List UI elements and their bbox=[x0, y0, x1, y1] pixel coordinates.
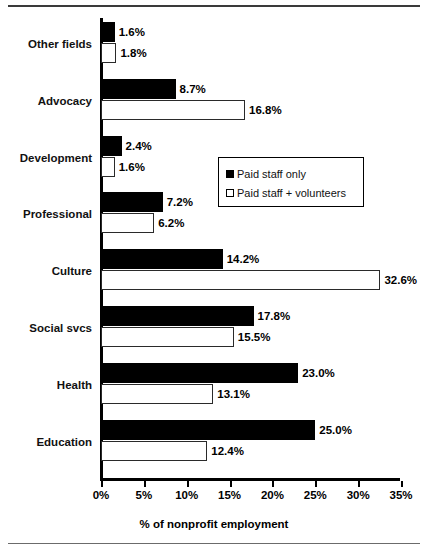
x-axis-tick-label: 35% bbox=[381, 489, 421, 501]
x-axis-tick-label: 5% bbox=[124, 489, 164, 501]
top-divider-rule bbox=[8, 5, 420, 7]
legend-item-paid-staff-plus-volunteers: Paid staff + volunteers bbox=[226, 183, 363, 202]
bar-value-label: 16.8% bbox=[249, 100, 282, 120]
x-axis-tick-label: 0% bbox=[81, 489, 121, 501]
bar-value-label: 25.0% bbox=[319, 420, 352, 440]
y-axis-category-label: Development bbox=[0, 152, 92, 165]
bar-paid-staff-plus-volunteers bbox=[101, 327, 234, 347]
y-axis-category-label: Health bbox=[0, 379, 92, 392]
x-axis-tick-mark bbox=[401, 481, 403, 487]
bar-value-label: 1.8% bbox=[120, 43, 146, 63]
bar-paid-staff-only bbox=[101, 306, 254, 326]
x-axis-tick-label: 15% bbox=[210, 489, 250, 501]
bar-value-label: 1.6% bbox=[119, 22, 145, 42]
bar-group: Other fields1.6%1.8% bbox=[0, 22, 428, 63]
bottom-divider-rule bbox=[8, 543, 420, 544]
bar-paid-staff-only bbox=[101, 79, 176, 99]
bar-paid-staff-plus-volunteers bbox=[101, 157, 115, 177]
bar-group: Health23.0%13.1% bbox=[0, 363, 428, 404]
bar-paid-staff-only bbox=[101, 363, 298, 383]
bar-chart-plot-area: Other fields1.6%1.8%Advocacy8.7%16.8%Dev… bbox=[0, 10, 428, 480]
x-axis-tick-label: 10% bbox=[167, 489, 207, 501]
bar-group: Culture14.2%32.6% bbox=[0, 249, 428, 290]
x-axis-tick-label: 20% bbox=[252, 489, 292, 501]
y-axis-category-label: Other fields bbox=[0, 38, 92, 51]
bar-value-label: 1.6% bbox=[119, 157, 145, 177]
bar-paid-staff-plus-volunteers bbox=[101, 43, 116, 63]
bar-paid-staff-plus-volunteers bbox=[101, 270, 380, 290]
x-axis-tick-mark bbox=[187, 481, 189, 487]
x-axis-tick-mark bbox=[272, 481, 274, 487]
bar-value-label: 6.2% bbox=[158, 213, 184, 233]
legend-swatch-filled-icon bbox=[226, 170, 234, 178]
legend-swatch-hollow-icon bbox=[226, 189, 234, 197]
y-axis-category-label: Education bbox=[0, 436, 92, 449]
chart-legend: Paid staff only Paid staff + volunteers bbox=[218, 157, 364, 207]
y-axis-category-label: Professional bbox=[0, 208, 92, 221]
bar-value-label: 8.7% bbox=[180, 79, 206, 99]
bar-value-label: 32.6% bbox=[384, 270, 417, 290]
bar-value-label: 7.2% bbox=[167, 192, 193, 212]
legend-label-paid-staff-only: Paid staff only bbox=[237, 168, 306, 180]
y-axis-category-label: Advocacy bbox=[0, 95, 92, 108]
x-axis-tick-mark bbox=[101, 481, 103, 487]
x-axis-tick-mark bbox=[358, 481, 360, 487]
x-axis-tick-label: 25% bbox=[295, 489, 335, 501]
x-axis-tick-mark bbox=[315, 481, 317, 487]
bar-paid-staff-only bbox=[101, 136, 122, 156]
bar-paid-staff-only bbox=[101, 22, 115, 42]
bar-paid-staff-plus-volunteers bbox=[101, 384, 213, 404]
x-axis-title: % of nonprofit employment bbox=[0, 518, 428, 530]
bar-value-label: 13.1% bbox=[217, 384, 250, 404]
x-axis-tick-mark bbox=[144, 481, 146, 487]
bar-paid-staff-only bbox=[101, 420, 315, 440]
bar-paid-staff-plus-volunteers bbox=[101, 213, 154, 233]
bar-value-label: 15.5% bbox=[238, 327, 271, 347]
legend-item-paid-staff-only: Paid staff only bbox=[226, 164, 363, 183]
bar-group: Advocacy8.7%16.8% bbox=[0, 79, 428, 120]
bar-value-label: 14.2% bbox=[227, 249, 260, 269]
x-axis-tick-label: 30% bbox=[338, 489, 378, 501]
bar-value-label: 2.4% bbox=[126, 136, 152, 156]
bar-paid-staff-only bbox=[101, 249, 223, 269]
bar-paid-staff-plus-volunteers bbox=[101, 100, 245, 120]
legend-label-paid-staff-plus-volunteers: Paid staff + volunteers bbox=[237, 187, 346, 199]
bar-group: Education25.0%12.4% bbox=[0, 420, 428, 461]
y-axis-category-label: Social svcs bbox=[0, 322, 92, 335]
x-axis-tick-mark bbox=[230, 481, 232, 487]
bar-value-label: 17.8% bbox=[258, 306, 291, 326]
bar-value-label: 23.0% bbox=[302, 363, 335, 383]
bar-value-label: 12.4% bbox=[211, 441, 244, 461]
bar-paid-staff-plus-volunteers bbox=[101, 441, 207, 461]
bar-group: Social svcs17.8%15.5% bbox=[0, 306, 428, 347]
bar-paid-staff-only bbox=[101, 192, 163, 212]
y-axis-category-label: Culture bbox=[0, 265, 92, 278]
